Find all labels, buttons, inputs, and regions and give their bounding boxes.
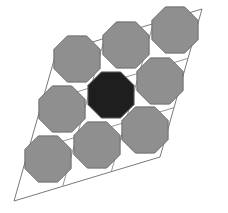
- octagon: [25, 136, 71, 182]
- octagon-group: [25, 7, 198, 182]
- octagon: [74, 122, 120, 168]
- octagon-lattice-diagram: [0, 0, 228, 213]
- octagon: [152, 7, 198, 53]
- octagon: [122, 107, 168, 153]
- octagon: [103, 22, 149, 68]
- highlighted-octagon: [88, 72, 134, 118]
- octagon: [39, 86, 85, 132]
- octagon: [137, 58, 183, 104]
- octagon: [54, 36, 100, 82]
